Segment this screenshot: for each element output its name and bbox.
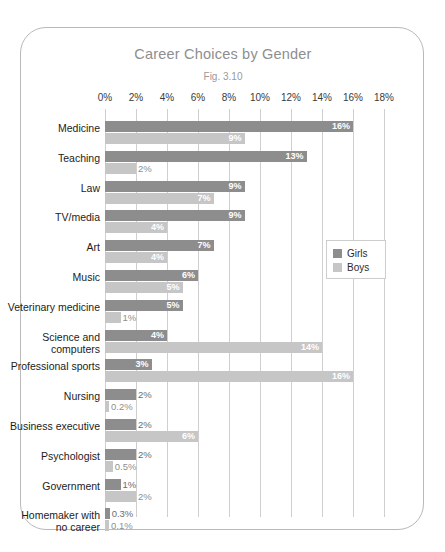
- bar-value-label: 2%: [138, 449, 152, 460]
- bar-value-label: 2%: [138, 491, 152, 502]
- bar-value-label: 2%: [138, 389, 152, 400]
- bar-girls: 1%: [105, 479, 121, 490]
- bar-row: TV/media9%4%: [105, 208, 384, 238]
- bar-value-label: 16%: [332, 121, 350, 132]
- bar-value-label: 4%: [151, 330, 164, 341]
- category-label: Business executive: [0, 420, 100, 432]
- bar-value-label: 6%: [182, 270, 195, 281]
- x-tick-10pct: 10%: [245, 92, 275, 103]
- bar-girls: 4%: [105, 330, 167, 341]
- bar-value-label: 0.3%: [112, 508, 134, 519]
- bar-girls: 2%: [105, 389, 136, 400]
- bar-boys: 6%: [105, 431, 198, 442]
- bar-girls: 7%: [105, 240, 214, 251]
- bar-boys: 2%: [105, 491, 136, 502]
- category-label: Nursing: [0, 390, 100, 402]
- x-tick-14pct: 14%: [307, 92, 337, 103]
- bar-row: Government1%2%: [105, 477, 384, 507]
- bar-girls: 5%: [105, 300, 183, 311]
- bar-boys: 14%: [105, 342, 322, 353]
- bar-girls: 0.3%: [105, 508, 110, 519]
- bar-row: Teaching13%2%: [105, 149, 384, 179]
- bar-girls: 6%: [105, 270, 198, 281]
- x-tick-18pct: 18%: [369, 92, 399, 103]
- x-tick-4pct: 4%: [152, 92, 182, 103]
- bar-value-label: 4%: [151, 222, 164, 233]
- bar-row: Psychologist2%0.5%: [105, 447, 384, 477]
- legend-swatch-girls-icon: [333, 249, 342, 258]
- category-label: TV/media: [0, 211, 100, 223]
- bar-value-label: 2%: [138, 163, 152, 174]
- bar-boys: 7%: [105, 193, 214, 204]
- x-tick-12pct: 12%: [276, 92, 306, 103]
- bar-value-label: 16%: [332, 371, 350, 382]
- legend-item-boys: Boys: [333, 260, 379, 274]
- x-tick-0pct: 0%: [90, 92, 120, 103]
- bar-boys: 2%: [105, 163, 136, 174]
- bar-value-label: 7%: [197, 240, 210, 251]
- bar-row: Law9%7%: [105, 179, 384, 209]
- bar-value-label: 5%: [166, 300, 179, 311]
- bar-girls: 2%: [105, 449, 136, 460]
- bar-value-label: 0.5%: [115, 461, 137, 472]
- bar-value-label: 9%: [228, 181, 241, 192]
- bar-value-label: 3%: [135, 359, 148, 370]
- category-label: Homemaker withno career: [0, 509, 100, 533]
- bar-row: Nursing2%0.2%: [105, 387, 384, 417]
- chart-legend: Girls Boys: [326, 240, 386, 279]
- bar-value-label: 1%: [123, 312, 137, 323]
- bar-row: Veterinary medicine5%1%: [105, 298, 384, 328]
- legend-swatch-boys-icon: [333, 263, 342, 272]
- bar-boys: 4%: [105, 222, 167, 233]
- bar-boys: 0.1%: [105, 520, 109, 531]
- gridline-18pct: [384, 109, 385, 517]
- bar-boys: 5%: [105, 282, 183, 293]
- bar-value-label: 9%: [228, 210, 241, 221]
- chart-screenshot: Career Choices by Gender Fig. 3.10 0%2%4…: [0, 0, 445, 552]
- bar-boys: 4%: [105, 252, 167, 263]
- bar-boys: 0.5%: [105, 461, 113, 472]
- category-label: Art: [0, 241, 100, 253]
- bar-row: Homemaker withno career0.3%0.1%: [105, 506, 384, 536]
- bar-row: Science andcomputers4%14%: [105, 328, 384, 358]
- category-label: Psychologist: [0, 450, 100, 462]
- bar-value-label: 13%: [285, 151, 303, 162]
- legend-label-girls: Girls: [347, 248, 368, 259]
- x-tick-6pct: 6%: [183, 92, 213, 103]
- bar-boys: 9%: [105, 133, 245, 144]
- bar-row: Business executive2%6%: [105, 417, 384, 447]
- bar-girls: 9%: [105, 181, 245, 192]
- bar-girls: 3%: [105, 359, 152, 370]
- chart-title: Career Choices by Gender: [21, 46, 425, 62]
- category-label: Law: [0, 182, 100, 194]
- bar-value-label: 4%: [151, 252, 164, 263]
- category-label: Veterinary medicine: [0, 301, 100, 313]
- chart-card: Career Choices by Gender Fig. 3.10 0%2%4…: [20, 27, 424, 530]
- x-tick-16pct: 16%: [338, 92, 368, 103]
- x-tick-2pct: 2%: [121, 92, 151, 103]
- legend-item-girls: Girls: [333, 246, 379, 260]
- bar-value-label: 1%: [123, 479, 137, 490]
- category-label: Professional sports: [0, 360, 100, 372]
- bar-value-label: 0.1%: [111, 520, 133, 531]
- bar-value-label: 6%: [182, 431, 195, 442]
- bar-row: Medicine16%9%: [105, 119, 384, 149]
- bar-row: Professional sports3%16%: [105, 357, 384, 387]
- category-label: Government: [0, 480, 100, 492]
- bar-value-label: 2%: [138, 419, 152, 430]
- category-label: Science andcomputers: [0, 331, 100, 355]
- category-label: Teaching: [0, 152, 100, 164]
- legend-label-boys: Boys: [347, 262, 369, 273]
- chart-figure-number: Fig. 3.10: [21, 71, 425, 82]
- bar-girls: 13%: [105, 151, 307, 162]
- bar-girls: 2%: [105, 419, 136, 430]
- x-tick-8pct: 8%: [214, 92, 244, 103]
- bar-girls: 9%: [105, 210, 245, 221]
- bar-girls: 16%: [105, 121, 353, 132]
- bar-value-label: 5%: [166, 282, 179, 293]
- category-label: Medicine: [0, 122, 100, 134]
- bar-boys: 1%: [105, 312, 121, 323]
- bar-value-label: 14%: [301, 342, 319, 353]
- bar-boys: 16%: [105, 371, 353, 382]
- bar-value-label: 0.2%: [111, 401, 133, 412]
